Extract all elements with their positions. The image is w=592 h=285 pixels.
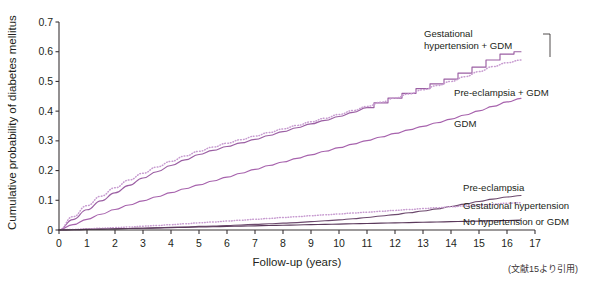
series-label-1: Pre-eclampsia + GDM xyxy=(454,87,549,98)
x-tick-label: 12 xyxy=(389,237,401,249)
series-label-line1: Pre-eclampsia xyxy=(463,182,525,193)
source-credit: (文献15より引用) xyxy=(508,263,578,274)
series-curve-5 xyxy=(59,220,521,230)
series-curve-2 xyxy=(59,98,521,230)
plot-area xyxy=(59,52,521,230)
series-label-4: Gestational hypertension xyxy=(463,200,569,211)
x-tick-label: 11 xyxy=(362,237,373,249)
series-label-line1: Gestational hypertension xyxy=(463,200,569,211)
y-tick-label: 0.2 xyxy=(38,164,53,176)
series-label-0: Gestationalhypertension + GDM xyxy=(424,28,512,51)
x-tick-label: 9 xyxy=(308,237,314,249)
x-tick-label: 4 xyxy=(168,237,174,249)
chart-figure: 00.10.20.30.40.50.60.7012345678910111213… xyxy=(0,0,592,285)
series-label-line1: Pre-eclampsia + GDM xyxy=(454,87,549,98)
x-tick-label: 7 xyxy=(252,237,258,249)
series-label-5: No hypertension or GDM xyxy=(463,216,569,227)
x-tick-label: 10 xyxy=(333,237,345,249)
y-tick-label: 0 xyxy=(47,224,53,236)
y-tick-label: 0.3 xyxy=(38,134,53,146)
x-tick-label: 15 xyxy=(473,237,485,249)
x-tick-label: 3 xyxy=(140,237,146,249)
series-label-line1: GDM xyxy=(454,118,476,129)
series-curve-0 xyxy=(59,52,521,230)
y-tick-label: 0.5 xyxy=(38,75,53,87)
series-label-3: Pre-eclampsia xyxy=(463,182,525,193)
axes: 00.10.20.30.40.50.60.7012345678910111213… xyxy=(38,16,541,249)
chart-svg: 00.10.20.30.40.50.60.7012345678910111213… xyxy=(0,0,592,285)
series-annotations: Gestationalhypertension + GDMPre-eclamps… xyxy=(424,28,569,227)
y-tick-label: 0.4 xyxy=(38,105,53,117)
y-tick-label: 0.6 xyxy=(38,45,53,57)
x-tick-label: 16 xyxy=(501,237,513,249)
x-tick-label: 0 xyxy=(56,237,62,249)
x-tick-label: 8 xyxy=(280,237,286,249)
series-label-2: GDM xyxy=(454,118,476,129)
y-tick-label: 0.1 xyxy=(38,194,53,206)
y-tick-label: 0.7 xyxy=(38,16,53,28)
series-label-line2: hypertension + GDM xyxy=(424,40,512,51)
x-tick-label: 13 xyxy=(417,237,429,249)
x-tick-label: 6 xyxy=(224,237,230,249)
x-tick-label: 2 xyxy=(112,237,118,249)
x-tick-label: 17 xyxy=(529,237,541,249)
series-label-line1: No hypertension or GDM xyxy=(463,216,569,227)
x-tick-label: 14 xyxy=(445,237,457,249)
x-tick-label: 5 xyxy=(196,237,202,249)
x-axis-title: Follow-up (years) xyxy=(253,256,342,268)
leader-gestational-gdm xyxy=(543,34,550,57)
y-axis-title: Cumulative probability of diabetes melli… xyxy=(6,15,18,230)
series-label-line1: Gestational xyxy=(424,28,473,39)
x-tick-label: 1 xyxy=(84,237,90,249)
